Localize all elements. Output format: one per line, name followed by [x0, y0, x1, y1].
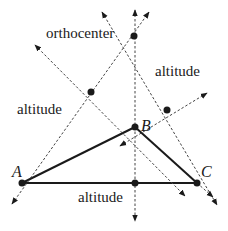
triangle — [22, 127, 197, 183]
point-b — [132, 124, 139, 131]
label-altitude-bottom: altitude — [78, 190, 123, 205]
point-foot-ab — [88, 89, 95, 96]
label-altitude-left: altitude — [17, 102, 62, 117]
point-orthocenter — [131, 33, 138, 40]
point-foot-ac — [132, 180, 139, 187]
altitude-from-c — [102, 12, 217, 205]
label-vertex-a: A — [12, 164, 22, 180]
side-ab — [22, 127, 135, 183]
label-vertex-b: B — [141, 118, 151, 134]
label-altitude-right: altitude — [155, 64, 200, 79]
label-orthocenter: orthocenter — [46, 26, 114, 41]
extension-bc — [120, 93, 207, 146]
orthocenter-diagram: orthocenter altitude altitude altitude A… — [0, 0, 228, 231]
label-vertex-c: C — [201, 164, 212, 180]
point-a — [19, 180, 26, 187]
point-foot-bc — [164, 107, 171, 114]
point-c — [194, 180, 201, 187]
